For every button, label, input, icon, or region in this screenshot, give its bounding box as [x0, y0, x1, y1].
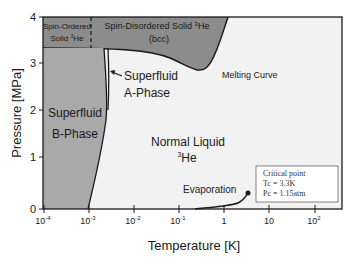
x-tick-1e-3: 10-3 [80, 215, 96, 226]
y-tick-4: 4 [30, 11, 36, 23]
y-tick-3: 3 [30, 57, 36, 69]
spin-ordered-label-2: Solid 3He [50, 33, 84, 43]
x-axis-title: Temperature [K] [148, 238, 241, 253]
y-axis-title: Pressure [MPa] [9, 68, 24, 158]
b-phase-label-2: B-Phase [52, 127, 98, 141]
normal-liquid-label-2: 3He [177, 151, 197, 165]
y-tick-1: 1 [30, 151, 36, 163]
svg-text:Pc = 1.15atm: Pc = 1.15atm [263, 189, 306, 198]
spin-disordered-bcc-label: (bcc) [149, 34, 169, 44]
a-phase-boundary [108, 48, 109, 110]
x-tick-1: 1 [221, 216, 226, 226]
normal-liquid-label-1: Normal Liquid [151, 135, 225, 149]
y-tick-0: 0 [30, 203, 36, 215]
evaporation-label: Evaporation [183, 184, 236, 195]
helium3-phase-diagram: 0 1 2 3 4 10-4 10-3 10-2 10-1 1 10 102 T… [0, 0, 357, 265]
y-tick-2: 2 [30, 104, 36, 116]
melting-curve-label: Melting Curve [222, 70, 278, 80]
spin-disordered-label: Spin-Disordered Solid 3He [105, 21, 210, 31]
x-tick-1e-2: 10-2 [125, 215, 141, 226]
x-tick-1e-4: 10-4 [35, 215, 51, 226]
b-phase-label-1: Superfluid [48, 106, 102, 120]
critical-point-annotation: Critical point Tc = 3.3K Pc = 1.15atm [256, 166, 338, 202]
svg-text:Tc = 3.3K: Tc = 3.3K [263, 179, 295, 188]
spin-ordered-label-1: Spin-Ordered [43, 22, 91, 31]
x-tick-1e-1: 10-1 [170, 215, 186, 226]
x-tick-10: 10 [264, 216, 274, 226]
a-phase-label-2: A-Phase [124, 86, 170, 100]
critical-point-marker [246, 191, 251, 196]
svg-text:Critical point: Critical point [263, 169, 306, 178]
a-phase-label-1: Superfluid [124, 69, 178, 83]
x-tick-1e2: 102 [307, 215, 321, 226]
